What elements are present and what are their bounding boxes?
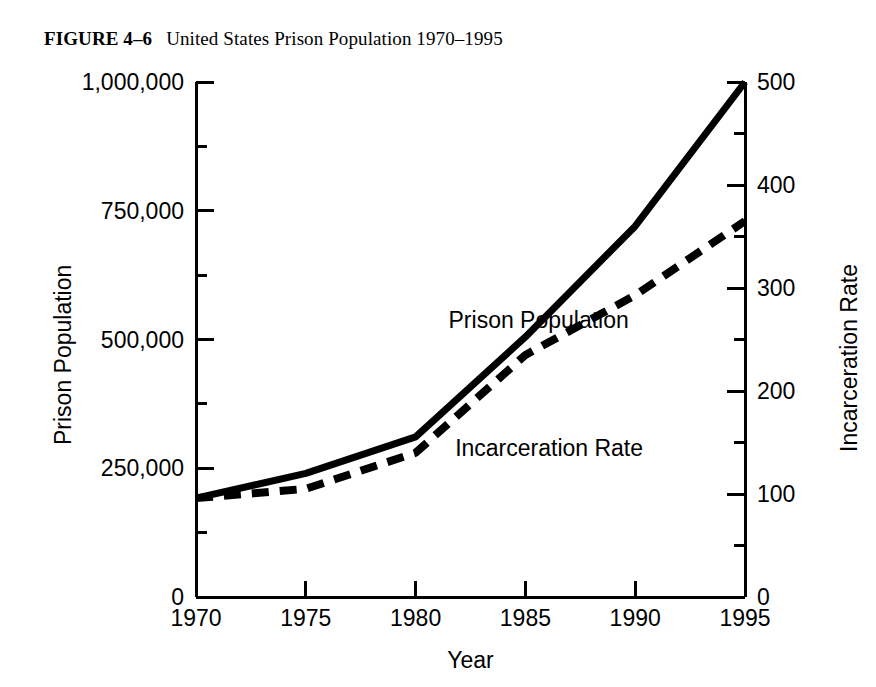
x-axis-tick-label: 1980 [390,607,441,630]
series-annotation-incarceration-rate: Incarceration Rate [455,437,643,460]
y-axis-left-title: Prison Population [52,264,75,444]
y-axis-right-tick-label: 500 [757,71,795,94]
y-axis-right-tick-label: 300 [757,277,795,300]
y-axis-right-title: Incarceration Rate [838,264,861,452]
x-axis-tick-label: 1985 [500,607,551,630]
series-annotation-prison-population: Prison Population [449,309,629,332]
x-axis-tick-label: 1970 [170,607,221,630]
axes-group [196,82,745,597]
y-axis-left-tick-label: 500,000 [101,328,184,351]
y-axis-left-tick-label: 750,000 [101,199,184,222]
x-axis-title: Year [447,649,493,672]
figure-container: FIGURE 4–6United States Prison Populatio… [0,0,876,687]
y-axis-left-tick-label: 250,000 [101,457,184,480]
y-axis-right-tick-label: 100 [757,483,795,506]
y-axis-right-tick-label: 400 [757,174,795,197]
x-axis-tick-label: 1995 [719,607,770,630]
x-axis-tick-label: 1990 [610,607,661,630]
y-axis-right-tick-label: 200 [757,380,795,403]
x-axis-tick-label: 1975 [280,607,331,630]
y-axis-left-tick-label: 1,000,000 [82,71,184,94]
